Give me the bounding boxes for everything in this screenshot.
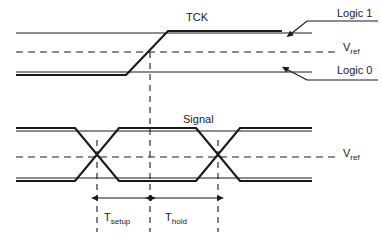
tsetup-subscript: setup [111, 217, 131, 226]
vref-label-lower: Vref [343, 148, 360, 162]
vref-subscript-upper: ref [350, 47, 359, 56]
signal-trace-high-first [16, 128, 312, 181]
timing-diagram: TCK Signal Logic 1 Logic 0 Vref Vref Tse… [0, 0, 381, 243]
signal-waveform-group [16, 128, 336, 181]
vref-label-upper: Vref [343, 42, 360, 56]
tck-label: TCK [186, 12, 208, 23]
logic1-leader-line [292, 21, 378, 33]
tsetup-label: Tsetup [104, 212, 130, 226]
tsetup-symbol: T [104, 211, 111, 223]
signal-label: Signal [183, 114, 214, 125]
tck-trace [16, 31, 282, 75]
logic1-label: Logic 1 [337, 8, 372, 19]
thold-label: Thold [165, 212, 187, 226]
logic0-label: Logic 0 [337, 65, 372, 76]
signal-trace-low-first [16, 128, 312, 181]
thold-subscript: hold [172, 217, 187, 226]
vref-subscript-lower: ref [350, 153, 359, 162]
tck-waveform-group [16, 31, 336, 75]
thold-symbol: T [165, 211, 172, 223]
